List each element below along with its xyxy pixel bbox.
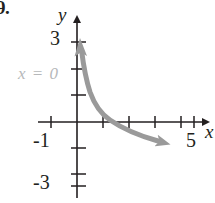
x-axis-label: x: [205, 122, 213, 141]
y-axis-label: y: [58, 5, 66, 24]
y-tick-label-negative-3: -3: [33, 172, 50, 192]
problem-number: 9.: [0, 0, 9, 17]
y-tick-label-3: 3: [50, 28, 60, 48]
x-tick-label-5: 5: [186, 130, 196, 150]
graph-figure: 9. y x 3 -3 -1 5 x = 0: [0, 0, 215, 203]
asymptote-label: x = 0: [18, 65, 59, 82]
function-curve: [82, 50, 159, 141]
x-tick-label-negative-1: -1: [33, 130, 50, 150]
